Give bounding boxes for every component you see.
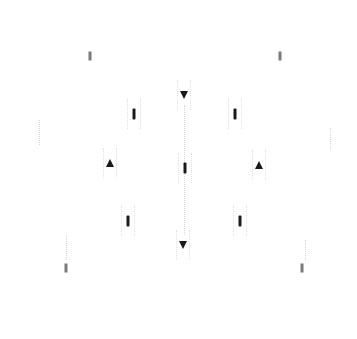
spot-upper-right <box>234 109 237 120</box>
spot-center <box>184 163 187 174</box>
marker-lower-right <box>301 264 304 273</box>
bar-shape <box>234 109 237 120</box>
spot-mid-right <box>255 161 263 169</box>
spot-lower-left <box>127 216 130 227</box>
bar-shape <box>184 163 187 174</box>
tri-down-shape <box>180 91 188 99</box>
spot-top <box>180 91 188 99</box>
bar-shape <box>127 216 130 227</box>
marker-upper-right <box>279 52 282 61</box>
guide-line-left <box>39 120 40 145</box>
tri-down-shape <box>179 241 187 249</box>
diffraction-pattern <box>0 0 357 339</box>
guide-line-lower-right <box>305 240 306 260</box>
guide-line-right <box>330 128 331 150</box>
spot-bottom <box>179 241 187 249</box>
tri-up-shape <box>106 159 114 167</box>
guide-line-lower-left <box>66 235 67 260</box>
bar-shape <box>133 109 136 120</box>
marker-upper-left <box>89 52 92 61</box>
spot-upper-left <box>133 109 136 120</box>
spot-lower-right <box>239 216 242 227</box>
tri-up-shape <box>255 161 263 169</box>
bar-shape <box>239 216 242 227</box>
spot-mid-left <box>106 159 114 167</box>
marker-lower-left <box>65 264 68 273</box>
